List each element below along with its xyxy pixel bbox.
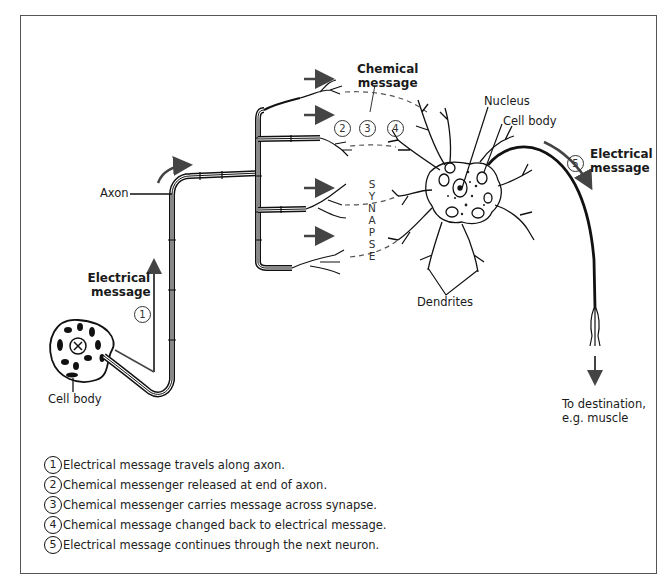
electrical-message-right-label: Electrical message: [590, 147, 653, 175]
step-marker-4: 4: [387, 120, 404, 137]
axon-icon: [104, 98, 320, 394]
destination-label: To destination, e.g. muscle: [562, 397, 646, 425]
axon-pointer: [130, 192, 172, 196]
step-marker-2: 2: [334, 120, 351, 137]
legend-item: 5 Electrical message continues through t…: [44, 535, 386, 555]
cell-body-left-label: Cell body: [48, 392, 102, 406]
step-marker-5: 5: [567, 155, 584, 172]
cell-body-right-label: Cell body: [503, 114, 557, 128]
step-marker-3: 3: [359, 120, 376, 137]
legend-text: Electrical message travels along axon.: [63, 458, 285, 472]
legend-num-icon: 1: [44, 456, 62, 474]
legend-num-icon: 4: [44, 516, 62, 534]
axon-label: Axon: [100, 186, 129, 200]
legend: 1 Electrical message travels along axon.…: [44, 455, 386, 555]
legend-item: 4 Chemical message changed back to elect…: [44, 515, 386, 535]
dendrites-label: Dendrites: [417, 295, 473, 309]
legend-item: 1 Electrical message travels along axon.: [44, 455, 386, 475]
legend-item: 2 Chemical messenger released at end of …: [44, 475, 386, 495]
legend-num-icon: 2: [44, 476, 62, 494]
dendrites-bracket: [428, 268, 478, 295]
nucleus-label: Nucleus: [484, 94, 530, 108]
axon-terminal-end-icon: [590, 308, 600, 346]
step-marker-1: 1: [134, 306, 151, 323]
legend-text: Chemical message changed back to electri…: [63, 518, 386, 532]
legend-text: Electrical message continues through the…: [63, 538, 379, 552]
cell-body-pointer: [484, 124, 502, 172]
legend-text: Chemical messenger released at end of ax…: [63, 478, 327, 492]
axon-terminals-icon: [292, 80, 352, 274]
electrical-message-left-label: Electrical message: [87, 271, 151, 299]
legend-num-icon: 3: [44, 496, 62, 514]
chemical-message-label: Chemical message: [357, 62, 418, 90]
legend-text: Chemical messenger carries message acros…: [63, 498, 377, 512]
synapse-label: S Y N A P S E: [366, 178, 378, 262]
legend-item: 3 Chemical messenger carries message acr…: [44, 495, 386, 515]
synapse-dashed-lines: [345, 92, 428, 257]
legend-num-icon: 5: [44, 536, 62, 554]
